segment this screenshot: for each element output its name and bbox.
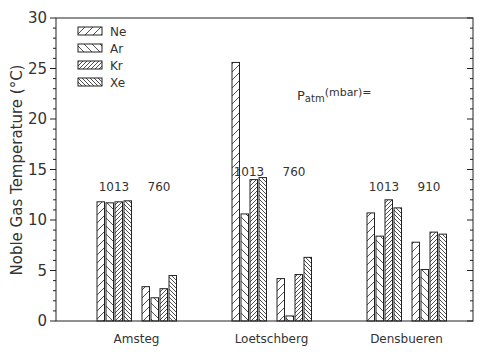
legend-swatch-ar — [78, 44, 102, 52]
bar-loetschberg-1013-kr — [250, 180, 258, 321]
bar-loetschberg-760-ne — [277, 279, 285, 321]
bar-densbueren-910-xe — [439, 234, 447, 321]
site-label: Densbueren — [370, 332, 443, 346]
bar-densbueren-1013-ne — [367, 213, 375, 321]
y-axis: 051015202530 — [28, 9, 56, 330]
pressure-label: 1013 — [99, 180, 130, 194]
pressure-labels: 101376010137601013910 — [99, 165, 441, 194]
bar-densbueren-910-ar — [421, 269, 429, 321]
y-tick-label: 10 — [28, 211, 47, 229]
bar-amsteg-760-kr — [160, 289, 168, 321]
legend-swatch-ne — [78, 27, 102, 35]
bar-loetschberg-760-kr — [295, 275, 303, 321]
bar-loetschberg-1013-ne — [232, 62, 240, 321]
bar-densbueren-1013-xe — [394, 208, 402, 321]
bar-densbueren-910-kr — [430, 232, 438, 321]
bar-amsteg-1013-ar — [106, 203, 114, 321]
legend-label-ar: Ar — [110, 42, 123, 56]
bar-loetschberg-1013-ar — [241, 214, 249, 321]
bar-loetschberg-760-xe — [304, 257, 312, 321]
y-tick-label: 0 — [37, 312, 47, 330]
legend-swatch-xe — [78, 78, 102, 86]
y-axis-label: Noble Gas Temperature (°C) — [8, 65, 26, 276]
pressure-label: 760 — [283, 165, 306, 179]
bar-amsteg-1013-xe — [124, 201, 132, 321]
site-label: Loetschberg — [235, 332, 309, 346]
legend-swatch-kr — [78, 61, 102, 69]
pressure-label: 1013 — [234, 165, 265, 179]
y-tick-label: 20 — [28, 110, 47, 128]
patm-annotation: Patm(mbar)= — [297, 86, 371, 104]
legend: NeArKrXe — [78, 25, 126, 90]
noble-gas-temperature-chart: 051015202530 101376010137601013910 Amste… — [0, 0, 488, 357]
legend-label-xe: Xe — [110, 76, 125, 90]
bar-loetschberg-760-ar — [286, 316, 294, 321]
y-tick-label: 15 — [28, 161, 47, 179]
bar-amsteg-1013-ne — [97, 202, 105, 321]
legend-label-ne: Ne — [110, 25, 126, 39]
site-label: Amsteg — [114, 332, 160, 346]
pressure-label: 760 — [148, 180, 171, 194]
site-labels: AmstegLoetschbergDensbueren — [114, 332, 443, 346]
bar-amsteg-1013-kr — [115, 202, 123, 321]
y-tick-label: 30 — [28, 9, 47, 27]
pressure-label: 910 — [418, 180, 441, 194]
legend-label-kr: Kr — [110, 59, 123, 73]
bar-amsteg-760-ar — [151, 298, 159, 321]
y-axis-right — [467, 18, 473, 321]
bar-loetschberg-1013-xe — [259, 178, 267, 321]
bar-amsteg-760-xe — [169, 276, 177, 321]
bar-densbueren-1013-kr — [385, 200, 393, 321]
y-tick-label: 5 — [37, 262, 47, 280]
bar-densbueren-910-ne — [412, 242, 420, 321]
pressure-label: 1013 — [369, 180, 400, 194]
bar-densbueren-1013-ar — [376, 236, 384, 321]
y-tick-label: 25 — [28, 60, 47, 78]
patm-label: P — [297, 88, 305, 103]
bar-amsteg-760-ne — [142, 287, 150, 321]
